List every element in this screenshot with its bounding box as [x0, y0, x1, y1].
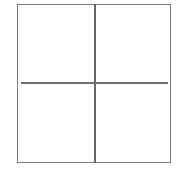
quadrant-bottom-left	[18, 84, 94, 162]
horizontal-divider	[21, 82, 168, 84]
quadrant-top-left	[18, 5, 94, 82]
vertical-divider	[94, 4, 96, 163]
quadrant-bottom-right	[96, 84, 170, 162]
quadrant-top-right	[96, 5, 170, 82]
diagram-canvas	[0, 0, 176, 172]
